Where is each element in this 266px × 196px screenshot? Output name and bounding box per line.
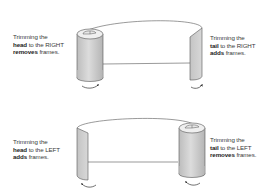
panel-head-left-graphic (77, 118, 195, 187)
film-strip-right-edge (190, 28, 202, 80)
label-head-left: Trimming the head to the LEFT adds frame… (13, 138, 60, 161)
trim-diagram (0, 0, 266, 196)
label-line-2: head to the RIGHT (13, 41, 64, 49)
label-head-right: Trimming the head to the RIGHT removes f… (13, 33, 64, 56)
label-line-1: Trimming the (13, 33, 64, 41)
film-strip-left-edge (77, 128, 88, 180)
label-direction: to the RIGHT (27, 41, 64, 48)
label-effect: removes (13, 48, 38, 55)
film-strip-top-edge (88, 21, 202, 30)
label-effect: adds (210, 49, 224, 56)
label-tail-left: Trimming the tail to the LEFT removes fr… (210, 136, 256, 159)
label-frames: frames. (27, 153, 49, 160)
label-effect: adds (13, 153, 27, 160)
label-line-2: head to the LEFT (13, 146, 60, 154)
label-direction: to the LEFT (27, 146, 60, 153)
label-line-1: Trimming the (210, 136, 256, 144)
label-line-1: Trimming the (13, 138, 60, 146)
label-edge: tail (210, 144, 219, 151)
panel-tail-right-graphic (191, 85, 202, 88)
panel-tail-left-graphic (179, 123, 205, 185)
label-direction: to the RIGHT (219, 42, 256, 49)
label-direction: to the LEFT (219, 144, 252, 151)
label-effect: removes (210, 151, 235, 158)
label-line-3: adds frames. (13, 153, 60, 161)
label-line-1: Trimming the (210, 34, 255, 42)
label-frames: frames. (38, 48, 60, 55)
label-line-3: removes frames. (210, 151, 256, 159)
label-edge: head (13, 146, 27, 153)
curved-rotation-arrow-icon (82, 184, 96, 187)
film-strip-bottom-edge (103, 63, 190, 64)
curved-rotation-arrow-icon (82, 85, 98, 88)
label-edge: tail (210, 42, 219, 49)
label-edge: head (13, 41, 27, 48)
label-tail-right: Trimming the tail to the RIGHT adds fram… (210, 34, 255, 57)
label-line-2: tail to the LEFT (210, 144, 256, 152)
label-line-3: removes frames. (13, 48, 64, 56)
label-line-2: tail to the RIGHT (210, 42, 255, 50)
film-strip-top-edge (77, 118, 195, 128)
label-frames: frames. (224, 49, 246, 56)
rolled-film-cylinder (77, 29, 103, 82)
curved-rotation-arrow-icon (186, 182, 200, 185)
label-line-3: adds frames. (210, 49, 255, 57)
curved-rotation-arrow-icon (191, 85, 202, 88)
rolled-film-cylinder (179, 123, 205, 178)
label-frames: frames. (235, 151, 257, 158)
panel-head-right-graphic (77, 21, 202, 88)
